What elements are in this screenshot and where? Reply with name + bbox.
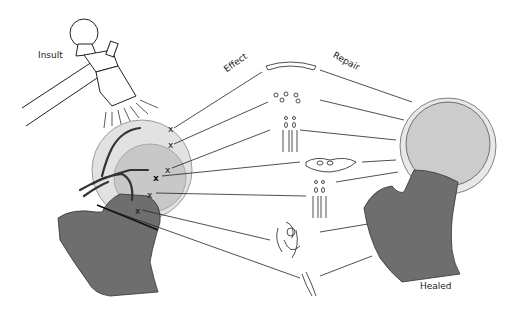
svg-text:x: x	[168, 124, 174, 134]
svg-text:x: x	[135, 206, 141, 216]
svg-text:x: x	[147, 190, 153, 200]
figure-canvas: x x x x x x	[0, 0, 510, 317]
healed-femoral-head	[364, 98, 496, 282]
hammer-icon	[22, 19, 158, 128]
label-insult: Insult	[38, 50, 63, 60]
svg-text:x: x	[153, 173, 159, 183]
effect-tissue-glyphs	[266, 62, 356, 296]
label-healed: Healed	[420, 281, 452, 291]
svg-text:x: x	[165, 165, 171, 175]
svg-text:x: x	[168, 140, 174, 150]
